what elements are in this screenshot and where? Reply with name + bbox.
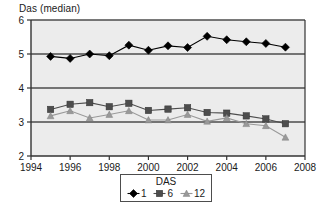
- legend-entry-label: 12: [194, 188, 205, 199]
- legend-entries: 1612: [121, 188, 211, 199]
- data-point-marker: [243, 113, 249, 119]
- data-point-marker: [126, 100, 132, 106]
- legend-entry-label: 6: [167, 188, 173, 199]
- chart-container: Das (median) 23456 199419961998200020022…: [0, 0, 332, 208]
- x-tick-label: 1998: [98, 162, 121, 173]
- x-tick-label: 1996: [59, 162, 82, 173]
- x-axis-ticks: 19941996199820002002200420062008: [20, 156, 317, 173]
- data-point-marker: [87, 99, 93, 105]
- legend: DAS 1612: [120, 174, 212, 202]
- y-tick-label: 6: [18, 15, 24, 26]
- x-tick-label: 1994: [20, 162, 43, 173]
- y-axis-ticks: 23456: [18, 15, 31, 162]
- y-tick-label: 3: [18, 117, 24, 128]
- y-tick-label: 5: [18, 49, 24, 60]
- x-tick-label: 2006: [255, 162, 278, 173]
- legend-entry-1[interactable]: 1: [127, 188, 147, 199]
- x-tick-label: 2000: [137, 162, 160, 173]
- y-tick-label: 2: [18, 151, 24, 162]
- data-point-marker: [263, 116, 269, 122]
- square-marker-icon: [153, 188, 166, 199]
- data-point-marker: [184, 105, 190, 111]
- legend-entry-label: 1: [141, 188, 147, 199]
- data-point-marker: [106, 104, 112, 110]
- diamond-marker-icon: [127, 188, 140, 199]
- data-point-marker: [204, 109, 210, 115]
- x-tick-label: 2002: [176, 162, 199, 173]
- legend-entry-12[interactable]: 12: [180, 188, 205, 199]
- data-point-marker: [282, 121, 288, 127]
- data-point-marker: [47, 106, 53, 112]
- x-tick-label: 2004: [216, 162, 239, 173]
- y-tick-label: 4: [18, 83, 24, 94]
- legend-entry-6[interactable]: 6: [153, 188, 173, 199]
- triangle-marker-icon: [180, 188, 193, 199]
- legend-title: DAS: [121, 176, 211, 187]
- data-point-marker: [165, 106, 171, 112]
- data-point-marker: [145, 107, 151, 113]
- x-tick-label: 2008: [294, 162, 317, 173]
- data-point-marker: [67, 101, 73, 107]
